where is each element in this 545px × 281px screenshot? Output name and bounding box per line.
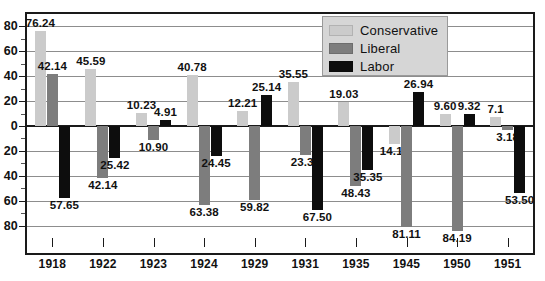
bar-conservative-1922 (85, 69, 96, 126)
x-axis-label-1950: 1950 (443, 257, 471, 271)
bar-value-label: 25.42 (100, 159, 129, 171)
bar-labor-1931 (312, 126, 323, 210)
bar-labor-1924 (211, 126, 222, 156)
bar-labor-1922 (109, 126, 120, 158)
bar-liberal-1923 (148, 126, 159, 140)
x-axis-label-1929: 1929 (241, 257, 269, 271)
legend-label-labor: Labor (360, 60, 394, 73)
x-axis-ticks (27, 238, 533, 253)
chart-legend: Conservative Liberal Labor (322, 16, 448, 76)
x-axis-tick (255, 238, 256, 247)
bar-value-label: 40.78 (177, 61, 206, 73)
bar-value-label: 48.43 (341, 187, 370, 199)
bar-value-label: 42.14 (38, 60, 67, 72)
y-axis-tick-label: 40 (4, 169, 18, 183)
legend-label-conservative: Conservative (360, 24, 438, 37)
x-axis-label-1945: 1945 (393, 257, 421, 271)
bar-value-label: 35.55 (279, 68, 308, 80)
x-axis-label-1935: 1935 (342, 257, 370, 271)
x-axis-label-1931: 1931 (292, 257, 320, 271)
bar-value-label: 35.35 (353, 171, 382, 183)
bar-conservative-1935 (338, 102, 349, 126)
bar-value-label: 9.32 (458, 100, 481, 112)
x-axis-tick (103, 238, 104, 247)
bar-conservative-1945 (389, 126, 400, 144)
bar-value-label: 10.90 (139, 141, 168, 153)
legend-swatch-liberal (329, 43, 353, 54)
bar-liberal-1931 (300, 126, 311, 155)
plot-area: 76.2442.1457.6545.5942.1425.4210.2310.90… (27, 14, 533, 238)
bar-liberal-1918 (47, 74, 58, 126)
y-axis: 80604020020406080 (0, 12, 25, 255)
bar-value-label: 63.38 (189, 206, 218, 218)
bar-labor-1929 (261, 95, 272, 126)
bar-labor-1935 (362, 126, 373, 170)
y-axis-tick-label: 40 (4, 69, 18, 83)
x-axis-tick (457, 238, 458, 247)
bar-labor-1950 (464, 114, 475, 126)
x-axis-tick (356, 238, 357, 247)
x-axis-tick (154, 238, 155, 247)
x-axis-tick (305, 238, 306, 247)
y-axis-tick-label: 60 (4, 194, 18, 208)
legend-item-liberal: Liberal (329, 40, 441, 57)
bar-value-label: 59.82 (240, 201, 269, 213)
legend-swatch-conservative (329, 25, 353, 36)
bar-conservative-1924 (187, 75, 198, 126)
bar-value-label: 25.14 (252, 81, 281, 93)
legend-item-labor: Labor (329, 58, 441, 75)
y-axis-tick-label: 80 (4, 19, 18, 33)
x-axis-tick (407, 238, 408, 247)
x-axis-label-1918: 1918 (39, 257, 67, 271)
bar-value-label: 4.91 (154, 106, 177, 118)
bar-chart: 80604020020406080 76.2442.1457.6545.5942… (0, 0, 545, 281)
bar-liberal-1929 (249, 126, 260, 200)
bar-conservative-1931 (288, 82, 299, 126)
bar-value-label: 7.1 (488, 103, 504, 115)
bar-conservative-1918 (35, 31, 46, 126)
x-axis-label-1923: 1923 (140, 257, 168, 271)
legend-swatch-labor (329, 61, 353, 72)
bar-value-label: 67.50 (303, 211, 332, 223)
gridline (27, 51, 533, 52)
y-axis-tick-label: 80 (4, 219, 18, 233)
bar-conservative-1950 (440, 114, 451, 126)
bar-value-label: 57.65 (50, 199, 79, 211)
bar-labor-1918 (59, 126, 70, 198)
x-axis-tick (52, 238, 53, 247)
bar-labor-1923 (160, 120, 171, 126)
bar-conservative-1951 (490, 117, 501, 126)
bar-liberal-1945 (401, 126, 412, 227)
x-axis-tick (204, 238, 205, 247)
bar-liberal-1950 (452, 126, 463, 231)
legend-item-conservative: Conservative (329, 22, 441, 39)
legend-label-liberal: Liberal (360, 42, 400, 55)
bar-value-label: 9.60 (434, 100, 457, 112)
bar-labor-1951 (514, 126, 525, 193)
gridline (27, 26, 533, 27)
x-axis-tick (508, 238, 509, 247)
bar-labor-1945 (413, 92, 424, 126)
bar-value-label: 53.50 (505, 194, 534, 206)
bar-value-label: 26.94 (404, 78, 433, 90)
y-axis-tick-label: 20 (4, 144, 18, 158)
bar-value-label: 24.45 (201, 157, 230, 169)
bar-value-label: 45.59 (76, 55, 105, 67)
bar-conservative-1923 (136, 113, 147, 126)
y-axis-tick-label: 60 (4, 44, 18, 58)
y-axis-tick-label: 0 (11, 119, 18, 133)
x-axis-label-1922: 1922 (89, 257, 117, 271)
y-axis-tick-label: 20 (4, 94, 18, 108)
bar-value-label: 12.21 (228, 97, 257, 109)
x-axis-label-1951: 1951 (494, 257, 522, 271)
bar-value-label: 10.23 (127, 99, 156, 111)
bar-value-label: 42.14 (88, 179, 117, 191)
bar-value-label: 76.24 (26, 17, 55, 29)
bar-value-label: 19.03 (329, 88, 358, 100)
x-axis-label-1924: 1924 (190, 257, 218, 271)
bar-conservative-1929 (237, 111, 248, 126)
bar-liberal-1951 (502, 126, 513, 130)
